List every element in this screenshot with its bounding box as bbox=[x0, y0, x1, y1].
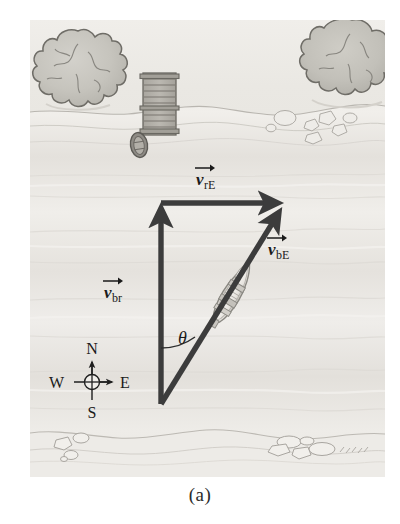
vector-label-v-bE-sub: bE bbox=[276, 248, 289, 262]
figure-illustration: vbr vrE vbE θ bbox=[0, 0, 400, 524]
compass-label-south: S bbox=[88, 404, 97, 421]
figure-caption: (a) bbox=[0, 484, 400, 506]
vector-label-v-rE-main: v bbox=[196, 170, 204, 189]
dock bbox=[140, 73, 179, 135]
vector-label-v-br: vbr bbox=[103, 278, 123, 306]
vector-label-v-br-main: v bbox=[104, 283, 112, 302]
compass-label-west: W bbox=[49, 374, 65, 391]
vector-label-v-bE: vbE bbox=[267, 235, 289, 263]
compass-label-north: N bbox=[86, 340, 98, 357]
theta-label: θ bbox=[178, 328, 187, 348]
vector-label-v-rE: vrE bbox=[195, 165, 215, 193]
vector-label-v-bE-main: v bbox=[268, 240, 276, 259]
compass-label-east: E bbox=[120, 374, 130, 391]
figure-root: vbr vrE vbE θ bbox=[0, 0, 400, 524]
vector-label-v-br-sub: br bbox=[112, 291, 122, 305]
vector-label-v-rE-sub: rE bbox=[204, 178, 215, 192]
